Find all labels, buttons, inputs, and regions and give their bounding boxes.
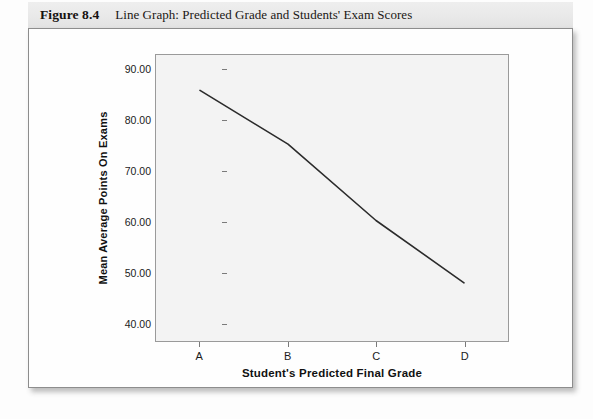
x-tick-mark (288, 342, 289, 347)
x-tick-label: A (179, 350, 219, 362)
x-tick-mark (376, 342, 377, 347)
x-tick-mark (465, 342, 466, 347)
x-axis-title: Student's Predicted Final Grade (155, 367, 509, 379)
line-chart: 40.0050.0060.0070.0080.0090.00 Mean Aver… (29, 29, 572, 387)
figure-title: Line Graph: Predicted Grade and Students… (115, 7, 412, 23)
x-tick-label: D (445, 350, 485, 362)
x-tick-mark (199, 342, 200, 347)
x-axis-tick-labels: ABCD (29, 29, 574, 389)
figure-card: 40.0050.0060.0070.0080.0090.00 Mean Aver… (28, 28, 573, 388)
x-tick-label: B (268, 350, 308, 362)
x-tick-label: C (356, 350, 396, 362)
figure-caption-bar: Figure 8.4 Line Graph: Predicted Grade a… (28, 2, 573, 28)
figure-number: Figure 8.4 (40, 7, 99, 23)
